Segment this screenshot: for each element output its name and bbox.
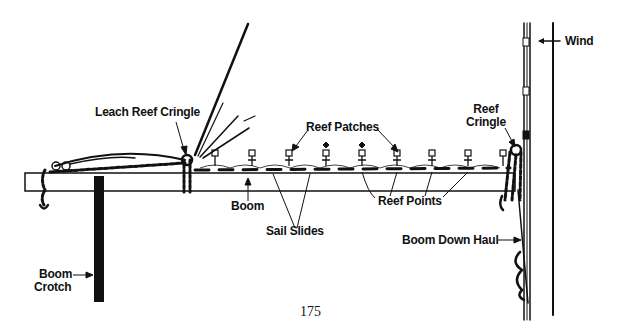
label-reef-patches: Reef Patches xyxy=(306,121,379,134)
label-boom-down-haul: Boom Down Haul xyxy=(402,234,499,247)
label-leach-reef-cringle: Leach Reef Cringle xyxy=(95,106,200,119)
label-reef-cringle: Reef Cringle xyxy=(466,103,506,129)
label-wind: Wind xyxy=(565,35,593,48)
label-boom-crotch: Boom Crotch xyxy=(34,268,72,294)
label-boom: Boom xyxy=(231,200,264,213)
label-sail-slides: Sail Slides xyxy=(266,225,324,238)
label-reef-points: Reef Points xyxy=(378,195,442,208)
label-boom-crotch-line2: Crotch xyxy=(34,281,72,294)
boom-crotch xyxy=(94,176,104,302)
reef-patches xyxy=(200,142,506,168)
page-number: 175 xyxy=(300,304,321,320)
label-reef-cringle-line2: Cringle xyxy=(466,116,506,129)
reefing-diagram-drawing xyxy=(0,0,622,335)
